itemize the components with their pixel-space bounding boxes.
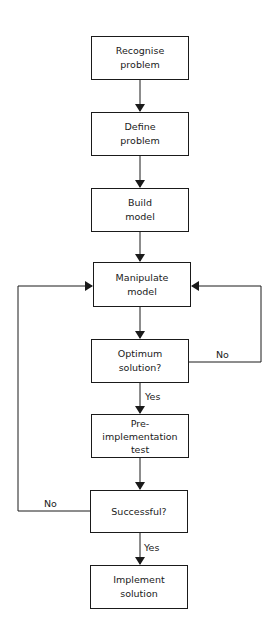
node-text: Manipulate bbox=[116, 271, 169, 285]
node-text: problem bbox=[120, 58, 159, 72]
node-define-problem: Define problem bbox=[91, 112, 189, 156]
node-text: problem bbox=[120, 134, 159, 148]
node-text: solution? bbox=[119, 361, 162, 375]
node-text: Successful? bbox=[111, 505, 166, 519]
node-recognise-problem: Recognise problem bbox=[91, 36, 189, 80]
connector-layer bbox=[0, 0, 278, 640]
edge-label-successful-yes: Yes bbox=[144, 542, 159, 554]
node-successful: Successful? bbox=[90, 490, 188, 533]
node-text: Build bbox=[128, 196, 152, 210]
node-optimum-solution: Optimum solution? bbox=[91, 339, 189, 383]
edge-label-successful-no: No bbox=[44, 498, 57, 510]
node-text: Recognise bbox=[116, 44, 165, 58]
edge-label-optimum-no: No bbox=[216, 349, 229, 361]
node-text: solution bbox=[120, 587, 158, 601]
node-pre-implementation-test: Pre- implementation test bbox=[91, 414, 189, 458]
node-text: Pre- bbox=[131, 417, 150, 430]
node-text: test bbox=[131, 443, 149, 456]
node-implement-solution: Implement solution bbox=[90, 565, 188, 609]
node-text: Implement bbox=[113, 573, 164, 587]
node-text: model bbox=[127, 285, 157, 299]
loop-successful-no bbox=[18, 286, 92, 511]
node-text: model bbox=[125, 210, 155, 224]
node-text: Define bbox=[124, 120, 155, 134]
node-text: Optimum bbox=[118, 347, 162, 361]
node-manipulate-model: Manipulate model bbox=[93, 262, 191, 307]
edge-label-optimum-yes: Yes bbox=[145, 391, 160, 403]
node-build-model: Build model bbox=[91, 188, 189, 232]
node-text: implementation bbox=[102, 430, 177, 443]
